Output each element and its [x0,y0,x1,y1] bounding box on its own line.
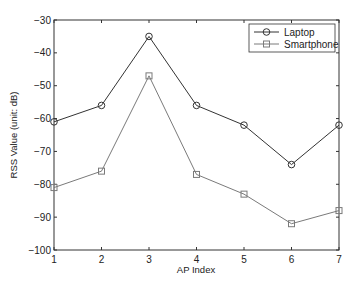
x-tick-label: 7 [336,254,342,265]
x-tick-label: 3 [146,254,152,265]
series-line [54,76,339,224]
y-tick-label: −30 [34,15,51,26]
y-tick-label: −100 [28,245,51,256]
series-laptop [51,33,343,168]
plot-frame [54,20,339,250]
x-axis-label: AP Index [177,264,216,275]
series-layer [51,33,343,227]
y-tick-label: −80 [34,179,51,190]
legend-label: Laptop [284,27,315,38]
x-tick-label: 6 [289,254,295,265]
legend-label: Smartphone [284,39,339,50]
x-tick-label: 5 [241,254,247,265]
series-line [54,36,339,164]
y-axis-label: RSS Value (unit: dB) [8,92,19,179]
x-tick-label: 2 [99,254,105,265]
x-tick-label: 1 [51,254,57,265]
line-chart: −30−40−50−60−70−80−90−100 1234567 Laptop… [0,0,360,286]
x-axis-ticks: 1234567 [51,20,342,265]
legend: LaptopSmartphone [249,24,339,52]
y-tick-label: −40 [34,47,51,58]
y-tick-label: −50 [34,80,51,91]
y-tick-label: −90 [34,212,51,223]
y-tick-label: −60 [34,113,51,124]
y-tick-label: −70 [34,146,51,157]
series-smartphone [51,73,342,227]
